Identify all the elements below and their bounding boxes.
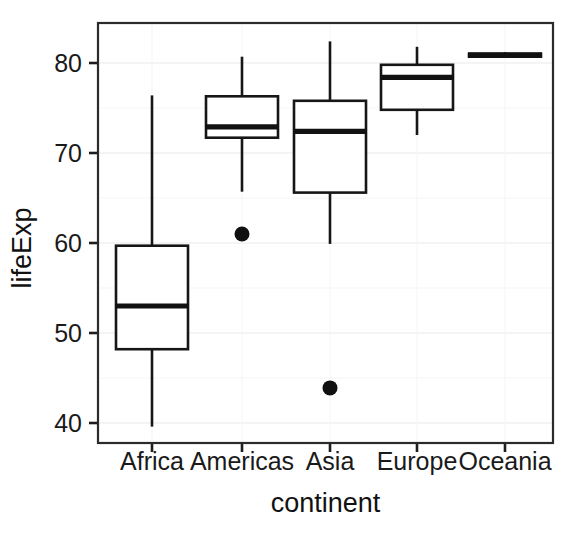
box-oceania [468,52,542,57]
y-tick-label: 50 [54,319,82,347]
x-tick-label: Oceania [458,447,551,475]
y-tick-label: 70 [54,139,82,167]
x-tick-label: Asia [306,447,355,475]
y-tick-label: 60 [54,229,82,257]
outlier-point [235,227,250,242]
plot-panel-background [98,23,553,443]
y-tick-label: 80 [54,49,82,77]
box-iqr-rect [294,101,366,193]
x-tick-label: Africa [120,447,184,475]
box-iqr-rect [116,246,188,350]
boxplot-figure: 4050607080 AfricaAmericasAsiaEuropeOcean… [0,0,579,535]
x-tick-label: Europe [377,447,458,475]
box-iqr-rect [206,96,278,137]
y-axis-title: lifeExp [7,207,37,288]
box-iqr-rect [381,65,453,110]
y-tick-label: 40 [54,409,82,437]
chart-container: 4050607080 AfricaAmericasAsiaEuropeOcean… [0,0,579,535]
outlier-point [323,380,338,395]
x-axis-title: continent [271,488,381,518]
x-tick-label: Americas [190,447,294,475]
